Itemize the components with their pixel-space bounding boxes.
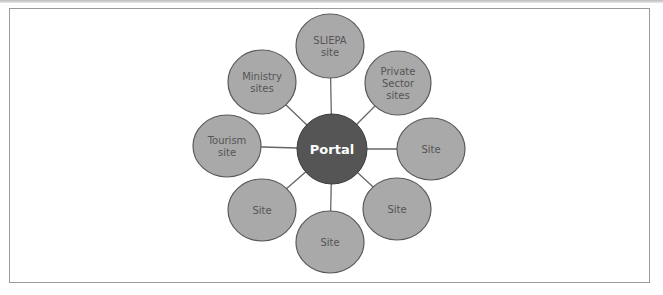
node-site-south: Site	[296, 211, 364, 273]
node-site-east: Site	[397, 118, 465, 180]
node-sliepa: SLIEPAsite	[296, 14, 364, 78]
node-site-southeast-label: Site	[387, 204, 406, 215]
node-site-south-label: Site	[320, 237, 339, 248]
node-private-sector-label: Private	[381, 66, 416, 77]
node-ministry-label: Ministry	[242, 71, 282, 82]
node-tourism-label: Tourism	[207, 135, 247, 146]
portal-diagram: SLIEPAsitePrivateSectorsitesSiteSiteSite…	[0, 0, 663, 295]
node-sliepa-label: site	[321, 47, 339, 58]
portal-hub: Portal	[297, 114, 367, 184]
node-tourism-label: site	[218, 147, 236, 158]
node-private-sector: PrivateSectorsites	[365, 51, 431, 115]
portal-hub-label: Portal	[310, 142, 354, 157]
node-ministry: Ministrysites	[228, 50, 296, 114]
node-sliepa-label: SLIEPA	[313, 35, 347, 46]
node-private-sector-label: Sector	[382, 78, 415, 89]
node-ministry-label: sites	[250, 83, 273, 94]
node-site-southwest-label: Site	[252, 205, 271, 216]
node-private-sector-label: sites	[386, 90, 409, 101]
node-site-southwest: Site	[228, 179, 296, 241]
node-site-east-label: Site	[421, 144, 440, 155]
node-site-southeast: Site	[363, 178, 431, 240]
node-tourism: Tourismsite	[193, 115, 261, 177]
